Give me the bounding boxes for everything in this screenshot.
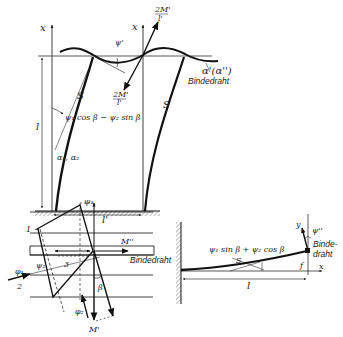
binding-wire-label-3b: draht (313, 249, 333, 259)
binding-wire-label-3a: Binde- (313, 239, 338, 249)
wall-hatch (176, 222, 181, 304)
moment-M-double-prime: M'' (120, 237, 134, 246)
psi-prime-label: ψ' (115, 38, 123, 47)
label-2: 2 (16, 282, 22, 291)
binding-wire-label-2: Bindedraht (130, 255, 172, 265)
axis-y-label: y (295, 220, 301, 229)
axis-x-right-label: x (132, 21, 138, 32)
label-1: 1 (26, 225, 31, 234)
psi2-label: ψ₂ (36, 261, 45, 270)
f-label: f (299, 261, 305, 270)
force-down-denominator: l' (117, 98, 122, 107)
technical-diagram: x x ψ' 2M' l' 2M' l' α'(α'') Bindedraht … (0, 0, 343, 337)
alpha-12-label: α₁, α₂ (57, 153, 79, 162)
moment-M-prime: M' (88, 325, 99, 334)
width-l-label: l' (102, 214, 108, 225)
binding-wire-curve (60, 48, 218, 63)
l-label: l (247, 280, 250, 291)
blade-right-S-label: S (163, 99, 170, 110)
deflection-expression: ψ₁ sin β + ψ₂ cos β (209, 245, 285, 254)
force-up-denominator: l' (158, 14, 163, 23)
psi-double-prime-label: ψ'' (312, 226, 323, 235)
beta-label: β (97, 283, 103, 292)
force-up-numerator: 2M' (154, 5, 170, 14)
axis-x-left-label: x (40, 22, 46, 33)
S-label: S (236, 256, 242, 265)
psi1-label: ψ₁ (84, 197, 93, 206)
phi2-label: φ₂ (75, 307, 84, 316)
bottom-right-beam-diagram: y ψ'' ψ₁ sin β + ψ₂ cos β S f l x Binde-… (176, 214, 338, 304)
blade-right (145, 57, 184, 211)
label-3: 3 (64, 260, 69, 269)
binding-wire-label: Bindedraht (188, 76, 230, 86)
alpha-label: α'(α'') (202, 65, 232, 76)
angle-expression: ψ₁ cos β − ψ₂ sin β (65, 113, 141, 122)
axis-x-label: x (319, 262, 324, 271)
bottom-left-vector-diagram: ψ₁ ψ₂ 1 2 3 φ₁ φ₂ M'' M' β Bindedraht (8, 197, 172, 334)
phi1-label: φ₁ (15, 267, 24, 276)
blade-left-S-label: S (77, 90, 84, 101)
height-l-label: l (36, 121, 39, 132)
